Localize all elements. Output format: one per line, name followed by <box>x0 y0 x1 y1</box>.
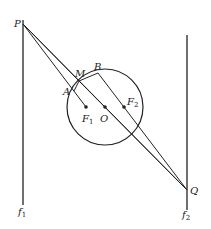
label-f2: f2 <box>181 209 190 222</box>
point-F2 <box>122 105 126 109</box>
label-O: O <box>100 113 108 124</box>
label-M: M <box>74 68 86 79</box>
segment-P-Q-via-M <box>23 24 79 81</box>
point-F1 <box>84 105 88 109</box>
point-O <box>103 105 107 109</box>
label-A: A <box>62 86 70 97</box>
label-F1: F1 <box>81 113 93 126</box>
segment-B-Q <box>98 73 187 190</box>
geometry-diagram: P Q M A B O F1 F2 f1 f2 <box>0 0 211 229</box>
segment-P-F1 <box>23 24 86 107</box>
label-B: B <box>93 61 101 72</box>
label-f1: f1 <box>17 206 26 219</box>
label-F2: F2 <box>126 96 138 109</box>
label-Q: Q <box>190 185 198 196</box>
label-P: P <box>13 18 21 29</box>
